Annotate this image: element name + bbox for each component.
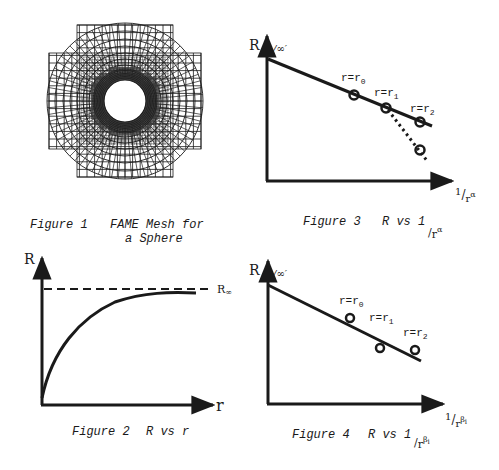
figure-sheet: Figure 1 FAME Mesh for a Sphere R /∞′ r=… — [0, 0, 499, 470]
figure-1-mesh — [47, 23, 203, 179]
figure-4-caption-fraction: /rβi — [414, 435, 431, 451]
figure-3-caption-fraction: /rα — [428, 225, 443, 241]
figure-2-caption-title: R vs r — [146, 425, 189, 439]
figure-3-label-r2: r=r2 — [410, 103, 435, 117]
figure-1-caption-title: FAME Mesh for — [110, 218, 204, 232]
figure-2-x-axis-label: r — [216, 396, 224, 415]
data-point-deviated — [416, 146, 425, 155]
figure-4-label-r0: r=r0 — [339, 295, 364, 309]
figure-4-caption-title: R vs 1 — [368, 428, 411, 442]
figure-4-label-r1: r=r1 — [369, 312, 394, 326]
data-point-r1 — [376, 344, 384, 352]
figure-1-caption-number: Figure 1 — [30, 218, 88, 232]
figure-3-y-axis-label: R — [249, 37, 260, 53]
figure-4-caption-number: Figure 4 — [292, 428, 350, 442]
figure-2-asymptote-label: R∞ — [217, 283, 232, 297]
r-curve — [42, 293, 196, 398]
figure-4-label-r2: r=r2 — [403, 327, 428, 341]
figure-3-caption-title: R vs 1 — [382, 215, 425, 229]
figure-2-caption-number: Figure 2 — [72, 425, 130, 439]
data-point-r2 — [411, 346, 419, 354]
figure-4-y-axis-label: R — [249, 262, 260, 278]
figure-3-label-r1: r=r1 — [374, 87, 399, 101]
figure-3-x-axis-label: 1/rα — [455, 186, 476, 204]
figure-3-caption-number: Figure 3 — [303, 215, 361, 229]
mesh-sphere-hole — [104, 80, 146, 122]
data-point-r0 — [346, 314, 354, 322]
figure-3-intercept-label: /∞′ — [272, 43, 288, 54]
figure-2-plot — [41, 258, 213, 405]
figure-3-label-r0: r=r0 — [341, 72, 366, 86]
figure-2-y-axis-label: R — [24, 251, 35, 267]
figure-4-intercept-label: /∞′ — [272, 268, 288, 279]
figure-4-x-axis-label: 1/rβi — [445, 411, 468, 429]
figure-1-caption-title-line2: a Sphere — [125, 232, 183, 246]
